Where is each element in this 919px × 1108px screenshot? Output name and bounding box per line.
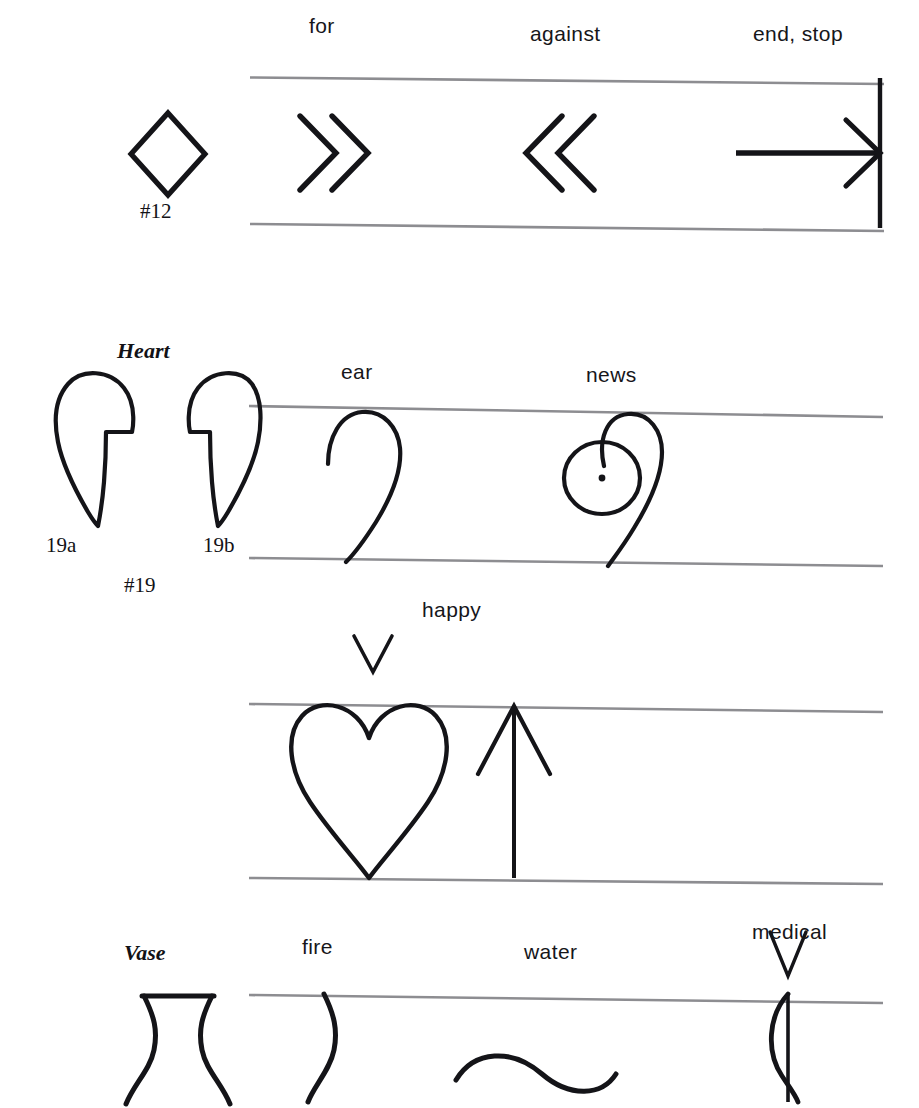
up-arrow-glyph xyxy=(470,698,560,884)
full-heart-glyph xyxy=(286,698,452,884)
label-water: water xyxy=(524,940,577,964)
stem-with-bow-medical-glyph xyxy=(760,992,820,1102)
heart-title: Heart xyxy=(117,338,170,364)
diamond-glyph xyxy=(124,108,212,200)
v-mark-happy-glyph xyxy=(348,630,398,680)
label-happy: happy xyxy=(422,598,481,622)
label-19b: 19b xyxy=(203,533,235,558)
label-19a: 19a xyxy=(46,533,76,558)
label-end-stop: end, stop xyxy=(753,22,843,46)
v-mark-medical-glyph xyxy=(763,928,813,984)
heart-caption: #19 xyxy=(124,573,156,598)
arrow-to-bar-glyph xyxy=(730,72,892,234)
vase-right-half-fire-glyph xyxy=(300,992,370,1102)
vase-glyph xyxy=(110,988,246,1104)
label-ear: ear xyxy=(341,360,373,384)
vase-title: Vase xyxy=(124,940,166,966)
half-heart-19a-glyph xyxy=(48,366,148,532)
label-for: for xyxy=(309,14,335,38)
half-heart-19b-glyph xyxy=(168,366,268,532)
label-fire: fire xyxy=(302,935,333,959)
double-chevron-right-glyph xyxy=(292,110,382,196)
news-center-dot xyxy=(599,475,606,482)
horizontal-s-curve-water-shape xyxy=(450,1048,640,1108)
double-chevron-left-glyph xyxy=(516,110,606,196)
diamond-caption: #12 xyxy=(140,199,172,224)
label-news: news xyxy=(586,363,637,387)
label-against: against xyxy=(530,22,601,46)
half-heart-curve-ear-glyph xyxy=(318,404,428,566)
half-heart-circle-dot-news-glyph xyxy=(548,406,668,568)
